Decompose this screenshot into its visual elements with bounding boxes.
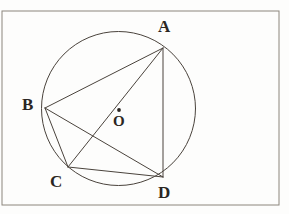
chord-BC — [45, 108, 68, 167]
point-label-b: B — [22, 96, 33, 113]
figure-border — [2, 11, 279, 205]
chord-AB — [45, 48, 163, 108]
center-label-o: O — [113, 114, 125, 129]
figure-canvas — [0, 0, 289, 214]
point-label-d: D — [158, 184, 170, 201]
point-label-a: A — [158, 18, 170, 35]
chord-BD — [45, 108, 163, 177]
center-dot — [117, 108, 121, 112]
geometry-figure: A B C D O — [0, 0, 289, 214]
point-label-c: C — [50, 173, 62, 190]
